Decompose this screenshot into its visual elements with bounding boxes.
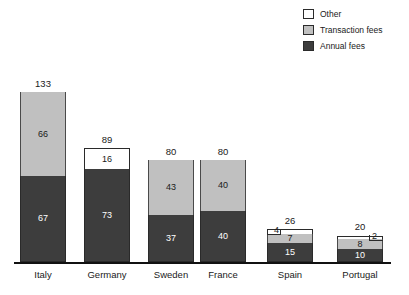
- segment-spain-annual-fees: 15: [267, 243, 313, 262]
- segment-value-sweden-annual-fees: 37: [166, 234, 176, 243]
- callout-tick-spain-other: [280, 229, 281, 235]
- segment-value-germany-other: 16: [102, 155, 112, 164]
- segment-value-sweden-transaction-fees: 43: [166, 183, 176, 192]
- segment-value-portugal-transaction-fees: 8: [357, 240, 362, 249]
- segment-value-spain-transaction-fees: 7: [287, 234, 292, 243]
- segment-value-france-transaction-fees: 40: [218, 181, 228, 190]
- bar-germany: 16 73: [84, 148, 130, 262]
- segment-spain-transaction-fees: 7: [267, 234, 313, 243]
- total-label-germany: 89: [84, 134, 130, 145]
- category-label-portugal: Portugal: [328, 269, 392, 280]
- segment-italy-transaction-fees: 66: [20, 92, 66, 176]
- segment-value-spain-annual-fees: 15: [285, 248, 295, 257]
- category-label-france: France: [191, 269, 255, 280]
- total-label-sweden: 80: [148, 146, 194, 157]
- segment-value-portugal-annual-fees: 10: [355, 251, 365, 260]
- plot-area: 133 66 67 Italy 89 16 73 Germany 80 43: [0, 0, 409, 295]
- segment-france-transaction-fees: 40: [200, 160, 246, 211]
- segment-value-italy-annual-fees: 67: [38, 214, 48, 223]
- bar-italy: 66 67: [20, 92, 66, 262]
- segment-portugal-annual-fees: 10: [337, 249, 383, 262]
- category-label-germany: Germany: [75, 269, 139, 280]
- total-label-france: 80: [200, 146, 246, 157]
- segment-value-germany-annual-fees: 73: [102, 211, 112, 220]
- segment-sweden-transaction-fees: 43: [148, 160, 194, 215]
- segment-germany-other: 16: [84, 148, 130, 169]
- callout-leader-spain-other: [267, 234, 280, 235]
- bar-france: 40 40: [200, 160, 246, 262]
- category-label-spain: Spain: [258, 269, 322, 280]
- segment-france-annual-fees: 40: [200, 211, 246, 262]
- segment-value-italy-transaction-fees: 66: [38, 130, 48, 139]
- segment-italy-annual-fees: 67: [20, 176, 66, 262]
- segment-germany-annual-fees: 73: [84, 169, 130, 262]
- total-label-italy: 133: [20, 78, 66, 89]
- segment-value-france-annual-fees: 40: [218, 232, 228, 241]
- x-axis-baseline: [14, 262, 391, 264]
- stacked-bar-chart: Other Transaction fees Annual fees 133 6…: [0, 0, 409, 295]
- segment-sweden-annual-fees: 37: [148, 215, 194, 262]
- bar-sweden: 43 37: [148, 160, 194, 262]
- callout-tick-portugal-other: [369, 235, 370, 241]
- callout-leader-portugal-other: [369, 240, 383, 241]
- category-label-italy: Italy: [11, 269, 75, 280]
